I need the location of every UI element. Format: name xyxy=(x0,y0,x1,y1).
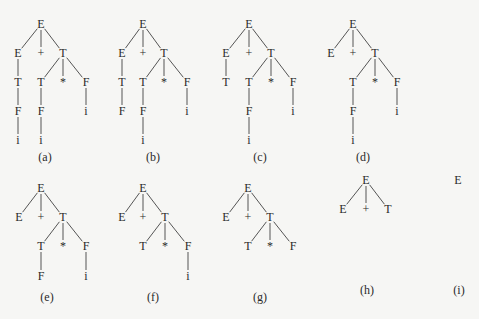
tree-edge xyxy=(253,58,268,77)
tree-node: F xyxy=(246,105,253,117)
tree-e-edges xyxy=(23,193,86,270)
tree-node: E xyxy=(15,211,22,223)
tree-node: i xyxy=(39,134,42,146)
tree-node: E xyxy=(14,47,21,59)
tree-edge xyxy=(335,29,350,48)
tree-node: T xyxy=(161,211,168,223)
tree-node: T xyxy=(349,76,356,88)
tree-edge xyxy=(67,58,83,78)
tree-edge xyxy=(230,29,246,49)
tree-node: i xyxy=(291,105,294,117)
tree-caption-c: (c) xyxy=(253,151,266,163)
tree-node: E xyxy=(139,182,146,194)
tree-node: F xyxy=(290,240,297,252)
tree-edge xyxy=(275,58,290,77)
tree-edge xyxy=(379,58,394,77)
tree-node: * xyxy=(268,76,274,88)
tree-node: i xyxy=(141,134,144,146)
tree-node: E xyxy=(349,18,356,30)
tree-node: F xyxy=(38,105,45,117)
tree-edge xyxy=(45,222,60,241)
tree-node: F xyxy=(394,76,401,88)
tree-node: T xyxy=(139,76,146,88)
tree-edge xyxy=(45,29,60,48)
tree-node: + xyxy=(38,211,45,223)
tree-node: E xyxy=(222,47,229,59)
tree-node: + xyxy=(245,211,252,223)
tree-node: F xyxy=(83,240,90,252)
tree-node: * xyxy=(60,76,66,88)
tree-node: T xyxy=(222,76,229,88)
tree-caption-h: (h) xyxy=(360,284,374,296)
tree-node: F xyxy=(185,240,192,252)
tree-edge xyxy=(23,193,38,212)
tree-edge xyxy=(126,193,140,212)
tree-caption-b: (b) xyxy=(146,151,160,163)
tree-edge xyxy=(126,29,140,48)
tree-edge xyxy=(357,29,372,48)
tree-caption-e: (e) xyxy=(40,291,53,303)
tree-node: i xyxy=(84,270,87,282)
tree-node: E xyxy=(244,182,251,194)
tree-edge xyxy=(147,58,161,77)
tree-node: E xyxy=(339,203,346,215)
tree-node: E xyxy=(118,211,125,223)
tree-edge xyxy=(147,29,161,48)
tree-caption-f: (f) xyxy=(147,291,159,303)
tree-edge xyxy=(230,193,245,212)
tree-node: * xyxy=(60,240,66,252)
tree-node: i xyxy=(185,105,188,117)
tree-g-edges xyxy=(230,193,290,242)
tree-node: E xyxy=(245,18,252,30)
tree-node: E xyxy=(37,182,44,194)
tree-edge xyxy=(45,193,60,212)
tree-caption-d: (d) xyxy=(356,151,370,163)
tree-node: E xyxy=(454,174,461,186)
tree-node: T xyxy=(245,76,252,88)
tree-a-edges xyxy=(18,29,86,134)
tree-node: T xyxy=(37,240,44,252)
tree-edge xyxy=(147,193,162,212)
tree-node: F xyxy=(184,76,191,88)
tree-node: + xyxy=(38,47,45,59)
tree-node: T xyxy=(14,76,21,88)
tree-node: F xyxy=(290,76,297,88)
tree-c-edges xyxy=(226,29,293,134)
tree-edge xyxy=(357,58,372,77)
tree-node: T xyxy=(118,76,125,88)
tree-node: i xyxy=(16,134,19,146)
parse-tree-figure: EE+TTT*FFFiii(a)EE+TTT*FFFii(b)EE+TTT*FF… xyxy=(0,0,479,319)
tree-caption-g: (g) xyxy=(253,291,267,303)
tree-node: F xyxy=(38,270,45,282)
tree-node: i xyxy=(84,105,87,117)
tree-node: * xyxy=(267,240,273,252)
tree-edge xyxy=(347,185,363,205)
tree-node: F xyxy=(140,105,147,117)
tree-edge xyxy=(45,58,60,77)
tree-node: * xyxy=(372,76,378,88)
tree-caption-i: (i) xyxy=(453,284,464,296)
tree-node: E xyxy=(118,47,125,59)
tree-b-edges xyxy=(122,29,187,134)
tree-node: + xyxy=(140,211,147,223)
tree-edge xyxy=(274,222,290,242)
tree-edges xyxy=(0,0,479,319)
tree-node: F xyxy=(83,76,90,88)
tree-node: F xyxy=(15,105,22,117)
tree-edge xyxy=(147,222,162,241)
tree-node: T xyxy=(139,240,146,252)
tree-node: F xyxy=(119,105,126,117)
tree-edge xyxy=(169,222,185,242)
tree-node: E xyxy=(327,47,334,59)
tree-edge xyxy=(22,29,38,49)
tree-node: E xyxy=(139,18,146,30)
tree-node: T xyxy=(59,211,66,223)
tree-node: T xyxy=(267,47,274,59)
tree-node: T xyxy=(37,76,44,88)
tree-node: i xyxy=(247,134,250,146)
tree-node: + xyxy=(246,47,253,59)
tree-edge xyxy=(252,222,267,241)
tree-node: T xyxy=(160,47,167,59)
tree-node: T xyxy=(59,47,66,59)
tree-node: T xyxy=(244,240,251,252)
